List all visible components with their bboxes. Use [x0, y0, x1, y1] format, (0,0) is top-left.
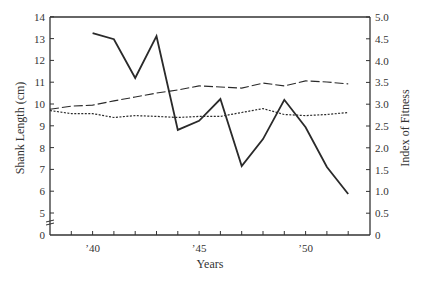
left-tick-label: 8	[40, 142, 46, 154]
right-tick-label: 2.5	[375, 120, 389, 132]
right-tick-label: 0	[375, 229, 381, 241]
x-tick-label: ’40	[85, 242, 100, 254]
left-tick-label: 0	[40, 229, 46, 241]
series-line-1	[93, 33, 349, 194]
x-axis-title: Years	[197, 257, 224, 271]
right-tick-label: 1.0	[375, 185, 389, 197]
series-layer	[50, 33, 348, 194]
left-tick-label: 12	[34, 54, 45, 66]
left-y-axis-title: Shank Length (cm)	[13, 82, 27, 175]
left-tick-label: 13	[34, 33, 46, 45]
x-tick-label: ’50	[298, 242, 313, 254]
right-tick-label: 2.0	[375, 142, 389, 154]
plot-frame	[46, 17, 370, 235]
x-tick-label: ’45	[192, 242, 207, 254]
right-tick-label: 1.5	[375, 164, 389, 176]
left-tick-label: 9	[40, 120, 46, 132]
left-tick-label: 11	[34, 76, 45, 88]
right-y-axis-title: Index of Fitness	[398, 89, 412, 167]
left-tick-label: 7	[40, 163, 46, 175]
left-tick-label: 10	[34, 98, 46, 110]
left-tick-label: 5	[40, 207, 46, 219]
right-tick-label: 0.5	[375, 207, 389, 219]
right-tick-label: 4.5	[375, 33, 389, 45]
right-tick-label: 4.0	[375, 55, 389, 67]
left-y-axis: 0567891011121314	[34, 11, 54, 241]
right-tick-label: 5.0	[375, 11, 389, 23]
left-tick-label: 14	[34, 11, 46, 23]
left-tick-label: 6	[40, 185, 46, 197]
series-line-3	[50, 109, 348, 118]
line-chart: 0567891011121314 00.51.01.52.02.53.03.54…	[0, 0, 422, 282]
right-tick-label: 3.0	[375, 98, 389, 110]
right-tick-label: 3.5	[375, 76, 389, 88]
series-line-2	[50, 81, 348, 109]
